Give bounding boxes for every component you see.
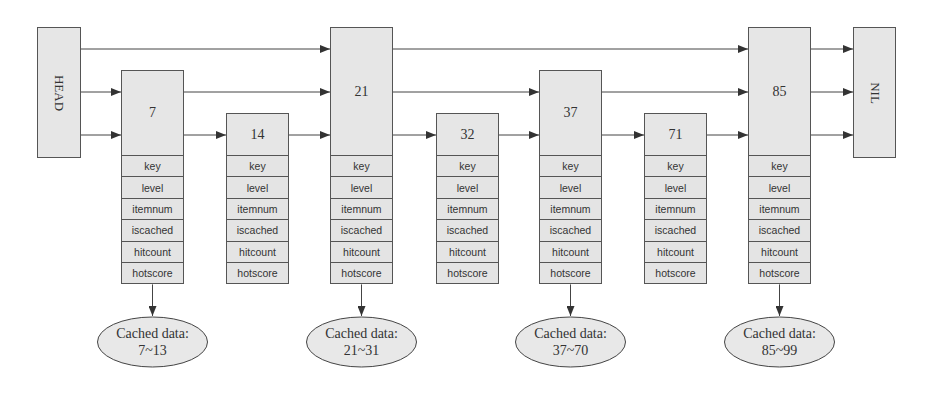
field-itemnum: itemnum [330, 198, 393, 220]
field-key: key [226, 155, 289, 177]
field-hotscore: hotscore [644, 262, 707, 284]
field-level: level [226, 176, 289, 198]
field-iscached: iscached [330, 219, 393, 241]
field-level: level [539, 176, 602, 198]
cached-data-title: Cached data: [743, 325, 816, 342]
node-key-label: 32 [461, 127, 475, 143]
field-key: key [539, 155, 602, 177]
cached-data-range: 85~99 [762, 342, 798, 359]
field-itemnum: itemnum [226, 198, 289, 220]
field-hitcount: hitcount [644, 241, 707, 263]
field-key: key [644, 155, 707, 177]
field-level: level [121, 176, 184, 198]
field-hotscore: hotscore [748, 262, 811, 284]
node-key-label: 85 [773, 84, 787, 100]
field-itemnum: itemnum [539, 198, 602, 220]
field-hitcount: hitcount [121, 241, 184, 263]
node-37: 37 [539, 70, 602, 156]
field-key: key [330, 155, 393, 177]
node-71: 71 [644, 113, 707, 156]
field-hotscore: hotscore [226, 262, 289, 284]
cached-data-label: Cached data:85~99 [725, 317, 835, 367]
skip-list-diagram: HEAD NIL 7keylevelitemnumiscachedhitcoun… [0, 0, 932, 407]
field-level: level [330, 176, 393, 198]
node-7: 7 [121, 70, 184, 156]
field-itemnum: itemnum [121, 198, 184, 220]
field-key: key [436, 155, 499, 177]
cached-data-title: Cached data: [325, 325, 398, 342]
cached-data-title: Cached data: [534, 325, 607, 342]
field-hotscore: hotscore [330, 262, 393, 284]
node-21: 21 [330, 27, 393, 156]
node-key-label: 37 [564, 105, 578, 121]
field-itemnum: itemnum [436, 198, 499, 220]
field-key: key [748, 155, 811, 177]
field-hitcount: hitcount [748, 241, 811, 263]
cached-data-range: 37~70 [553, 342, 589, 359]
head-sentinel: HEAD [37, 27, 81, 158]
field-iscached: iscached [539, 219, 602, 241]
field-iscached: iscached [644, 219, 707, 241]
field-hitcount: hitcount [436, 241, 499, 263]
field-iscached: iscached [436, 219, 499, 241]
field-iscached: iscached [226, 219, 289, 241]
node-key-label: 14 [251, 127, 265, 143]
field-level: level [748, 176, 811, 198]
cached-data-range: 7~13 [138, 342, 167, 359]
nil-label: NIL [866, 82, 882, 104]
head-label: HEAD [51, 74, 67, 110]
field-itemnum: itemnum [644, 198, 707, 220]
field-key: key [121, 155, 184, 177]
field-hotscore: hotscore [121, 262, 184, 284]
field-itemnum: itemnum [748, 198, 811, 220]
node-32: 32 [436, 113, 499, 156]
field-level: level [644, 176, 707, 198]
nil-sentinel: NIL [853, 27, 896, 158]
cached-data-range: 21~31 [344, 342, 380, 359]
node-key-label: 71 [669, 127, 683, 143]
cached-data-title: Cached data: [116, 325, 189, 342]
cached-data-label: Cached data:37~70 [516, 317, 626, 367]
cached-data-label: Cached data:7~13 [98, 317, 208, 367]
node-key-label: 7 [149, 105, 156, 121]
field-hitcount: hitcount [330, 241, 393, 263]
field-hitcount: hitcount [539, 241, 602, 263]
field-level: level [436, 176, 499, 198]
field-iscached: iscached [121, 219, 184, 241]
field-hotscore: hotscore [539, 262, 602, 284]
node-14: 14 [226, 113, 289, 156]
cached-data-label: Cached data:21~31 [307, 317, 417, 367]
node-85: 85 [748, 27, 811, 156]
node-key-label: 21 [355, 84, 369, 100]
field-hotscore: hotscore [436, 262, 499, 284]
field-hitcount: hitcount [226, 241, 289, 263]
field-iscached: iscached [748, 219, 811, 241]
